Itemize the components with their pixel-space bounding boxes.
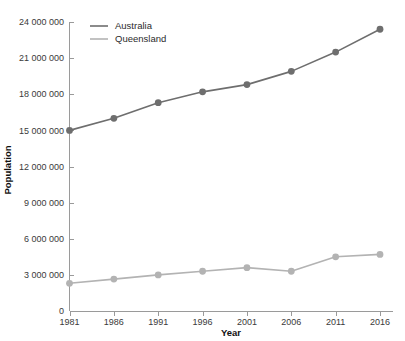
data-point-marker bbox=[199, 88, 206, 95]
y-tick-label: 9 000 000 bbox=[24, 198, 64, 208]
y-axis-tick-labels: 03 000 0006 000 0009 000 00012 000 00015… bbox=[19, 17, 64, 316]
y-tick-label: 12 000 000 bbox=[19, 162, 64, 172]
series-australia bbox=[66, 26, 383, 134]
population-line-chart: 03 000 0006 000 0009 000 00012 000 00015… bbox=[0, 0, 405, 341]
data-point-marker bbox=[377, 26, 384, 33]
y-axis-title: Population bbox=[2, 145, 13, 194]
x-tick-label: 1996 bbox=[193, 317, 213, 327]
x-tick-label: 2006 bbox=[281, 317, 301, 327]
data-series-group bbox=[66, 26, 383, 287]
data-point-marker bbox=[332, 49, 339, 56]
y-tick-label: 21 000 000 bbox=[19, 53, 64, 63]
data-point-marker bbox=[66, 127, 73, 134]
x-tick-label: 2001 bbox=[237, 317, 257, 327]
series-queensland bbox=[66, 251, 383, 287]
data-point-marker bbox=[332, 253, 339, 260]
y-tick-label: 15 000 000 bbox=[19, 126, 64, 136]
data-point-marker bbox=[110, 276, 117, 283]
data-point-marker bbox=[244, 264, 251, 271]
x-tick-label: 1986 bbox=[104, 317, 124, 327]
y-tick-label: 18 000 000 bbox=[19, 89, 64, 99]
chart-legend: AustraliaQueensland bbox=[90, 20, 166, 44]
data-point-marker bbox=[110, 115, 117, 122]
x-axis-tick-labels: 19811986199119962001200620112016 bbox=[59, 317, 390, 327]
data-point-marker bbox=[288, 268, 295, 275]
data-point-marker bbox=[155, 99, 162, 106]
chart-canvas: 03 000 0006 000 0009 000 00012 000 00015… bbox=[0, 0, 405, 341]
x-axis-tick-marks bbox=[70, 312, 381, 317]
data-point-marker bbox=[155, 271, 162, 278]
x-axis-title: Year bbox=[221, 327, 241, 338]
y-tick-label: 6 000 000 bbox=[24, 234, 64, 244]
x-tick-label: 1991 bbox=[148, 317, 168, 327]
data-point-marker bbox=[66, 280, 73, 287]
legend-label-queensland: Queensland bbox=[115, 33, 166, 44]
y-tick-label: 3 000 000 bbox=[24, 270, 64, 280]
y-axis-tick-marks bbox=[70, 23, 75, 312]
data-point-marker bbox=[377, 251, 384, 258]
data-point-marker bbox=[199, 268, 206, 275]
data-point-marker bbox=[244, 81, 251, 88]
y-tick-label: 0 bbox=[59, 306, 64, 316]
x-tick-label: 2016 bbox=[370, 317, 390, 327]
data-point-marker bbox=[288, 68, 295, 75]
x-tick-label: 2011 bbox=[326, 317, 345, 327]
legend-label-australia: Australia bbox=[115, 20, 153, 31]
y-tick-label: 24 000 000 bbox=[19, 17, 64, 27]
x-tick-label: 1981 bbox=[59, 317, 79, 327]
